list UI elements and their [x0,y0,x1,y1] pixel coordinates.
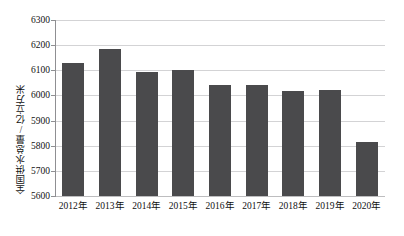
y-axis-tick-label: 5900 [6,116,50,126]
plot-area [55,20,385,196]
chart-figure: 56005700580059006000610062006300 全国供水总量/… [0,0,404,236]
gridline [55,196,385,197]
bar [282,91,304,196]
bar [209,85,231,196]
cropped-title-strip [140,0,390,7]
bar [356,142,378,196]
bar [319,90,341,196]
gridline [55,45,385,46]
y-axis-tick-mark [51,20,55,21]
y-axis-tick-mark [51,95,55,96]
y-axis-tick-mark [51,121,55,122]
y-axis-tick-label: 6000 [6,90,50,100]
y-axis-tick-label: 5800 [6,141,50,151]
y-axis-tick-label: 6200 [6,40,50,50]
bar [246,85,268,196]
y-axis-tick-label: 6300 [6,15,50,25]
y-axis-tick-mark [51,196,55,197]
y-axis-title: 全国供水总量/亿立方米 [14,44,28,194]
y-axis-tick-label: 5700 [6,166,50,176]
x-axis-tick-labels: 2012年2013年2014年2015年2016年2017年2018年2019年… [55,200,385,216]
y-axis-tick-label: 5600 [6,191,50,201]
y-axis-tick-mark [51,70,55,71]
y-axis-line [55,20,56,197]
bar [136,72,158,196]
y-axis-tick-mark [51,45,55,46]
x-axis-tick-label: 2020年 [344,200,390,212]
bar [99,49,121,196]
bar [62,63,84,196]
bar [172,70,194,196]
gridline [55,20,385,21]
y-axis-tick-label: 6100 [6,65,50,75]
y-axis-tick-mark [51,171,55,172]
y-axis-tick-mark [51,146,55,147]
